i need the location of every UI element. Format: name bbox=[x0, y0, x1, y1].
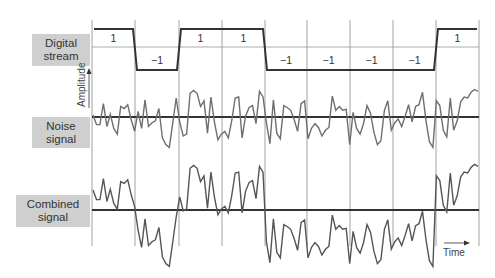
bit-labels: 1−111−1−1−1−11 bbox=[111, 32, 461, 66]
svg-text:1: 1 bbox=[198, 32, 204, 44]
amplitude-axis: Amplitude bbox=[76, 62, 92, 108]
svg-text:1: 1 bbox=[455, 32, 461, 44]
signal-diagram: 1−111−1−1−1−11 Amplitude Time bbox=[0, 0, 495, 278]
combined-signal-trace bbox=[93, 164, 478, 266]
svg-text:−1: −1 bbox=[366, 54, 378, 66]
time-axis: Time bbox=[443, 241, 470, 259]
amplitude-arrow-icon bbox=[87, 68, 92, 74]
time-arrow-icon bbox=[464, 241, 470, 246]
noise-signal-trace bbox=[93, 90, 478, 148]
svg-text:−1: −1 bbox=[409, 54, 421, 66]
svg-text:−1: −1 bbox=[280, 54, 292, 66]
svg-text:1: 1 bbox=[241, 32, 247, 44]
amplitude-label: Amplitude bbox=[76, 62, 87, 107]
time-label: Time bbox=[443, 247, 465, 258]
svg-text:−1: −1 bbox=[323, 54, 335, 66]
svg-text:1: 1 bbox=[111, 32, 117, 44]
svg-text:−1: −1 bbox=[151, 54, 163, 66]
